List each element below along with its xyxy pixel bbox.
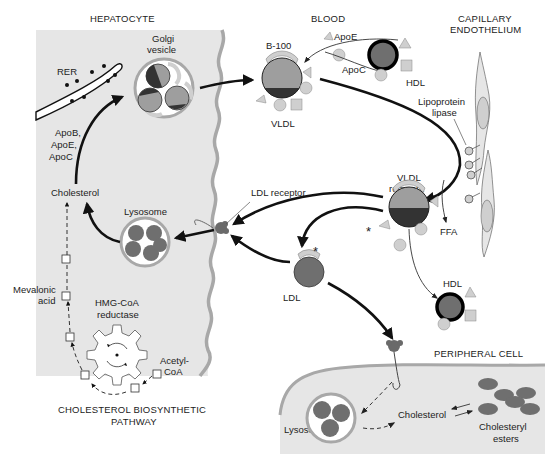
hmgcoa-reductase-gear-icon	[87, 325, 147, 385]
biosynthetic-title-line1: CHOLESTEROL BIOSYNTHETIC	[58, 404, 206, 415]
intermediate-box-1	[62, 255, 70, 263]
intermediate-box-2	[66, 333, 74, 341]
ffa-label: FFA	[440, 226, 458, 237]
apoc-list-label: ApoC	[49, 151, 73, 162]
hmgcoa-label-line1: HMG-CoA	[95, 297, 139, 308]
hepatocyte-title: HEPATOCYTE	[90, 13, 155, 24]
intermediate-box-4	[131, 384, 139, 392]
remnant-asterisk: *	[366, 224, 371, 239]
golgi-label-line1: Golgi	[152, 33, 174, 44]
biosynthetic-title-line2: PATHWAY	[111, 416, 157, 427]
ldl-receptor-label: LDL receptor	[251, 187, 306, 198]
intermediate-box-3	[81, 371, 89, 379]
vldl-remnant-particle	[379, 180, 438, 235]
lipoprotein-lipase-label-line1: Lipoprotein	[418, 96, 465, 107]
peripheral-cell-title: PERIPHERAL CELL	[434, 348, 523, 359]
hmgcoa-label-line2: reductase	[97, 309, 139, 320]
golgi-label-line2: vesicle	[147, 44, 176, 55]
mevalonic-label-line2: acid	[38, 295, 55, 306]
lipoprotein-metabolism-diagram: HEPATOCYTE RER Golgi vesicle ApoB, ApoE,…	[0, 0, 545, 454]
capillary-title-line2: ENDOTHELIUM	[450, 24, 521, 35]
hdl-bottom-label: HDL	[443, 278, 462, 289]
cholesteryl-label-line1: Cholesteryl	[479, 421, 527, 432]
ldl-label: LDL	[283, 292, 300, 303]
b100-label: B-100	[266, 40, 291, 51]
ldl-to-hepatic-receptor-arrow	[232, 236, 290, 262]
acetyl-label-line2: CoA	[164, 366, 183, 377]
lysosome-hepatocyte	[121, 218, 169, 266]
cholesterol-hepatocyte-label: Cholesterol	[51, 187, 99, 198]
capillary-title-line1: CAPILLARY	[458, 13, 512, 24]
hdl-top-label: HDL	[406, 77, 425, 88]
ffa-release-arrow	[442, 180, 446, 222]
mevalonic-label-line1: Mevalonic	[13, 284, 56, 295]
ldl-asterisk: *	[313, 244, 318, 259]
rer-label: RER	[57, 66, 77, 77]
mevalonic-acid-box	[62, 292, 70, 300]
lipoprotein-lipase-label-line2: lipase	[432, 107, 457, 118]
cholesterol-peripheral-label: Cholesterol	[398, 409, 446, 420]
acetyl-label-line1: Acetyl-	[160, 355, 189, 366]
vldl-particle	[256, 51, 312, 111]
acetyl-coa-box	[153, 370, 161, 378]
ldl-to-peripheral-receptor-arrow	[328, 283, 392, 338]
lysosome-hepatocyte-label: Lysosome	[124, 206, 167, 217]
capillary-endothelial-cells	[475, 52, 494, 257]
blood-title: BLOOD	[311, 13, 345, 24]
hdl-particle-top	[369, 38, 412, 81]
lysosome-peripheral	[307, 394, 355, 442]
apoe-list-label: ApoE,	[51, 139, 77, 150]
apob-label: ApoB,	[55, 127, 81, 138]
vldl-label: VLDL	[271, 118, 295, 129]
golgi-vesicle	[135, 59, 193, 117]
hdl-particle-bottom	[437, 287, 476, 330]
remnant-to-hdl-arrow	[409, 229, 437, 298]
cholesteryl-label-line2: esters	[493, 433, 519, 444]
ldl-particle	[294, 250, 324, 287]
hepatocyte-cell	[36, 30, 224, 376]
